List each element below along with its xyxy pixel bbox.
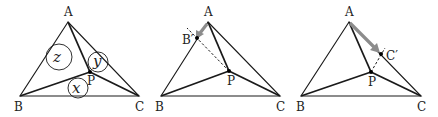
vertex-b-prime-label: B′: [182, 33, 194, 47]
circle-y-label: y: [92, 52, 102, 70]
vertex-b-label: B: [14, 100, 23, 114]
vertex-a-label: A: [63, 5, 73, 19]
triangle-abc: [161, 22, 280, 96]
segment-bp: [161, 71, 229, 96]
segment-bp: [301, 72, 371, 96]
point-p-dot: [369, 70, 373, 74]
vertex-c-label: C: [135, 100, 144, 114]
vertex-c-prime-label: C′: [386, 49, 398, 63]
point-p-dot: [227, 69, 231, 73]
vertex-a-label: A: [344, 5, 354, 19]
panel-2: A B′ B C P: [155, 5, 285, 114]
segment-cp: [90, 72, 139, 96]
panel-3: A C′ B C P: [296, 5, 426, 114]
circle-z-label: z: [52, 48, 61, 66]
point-c-prime-dot: [379, 52, 383, 56]
segment-ap: [68, 22, 90, 72]
vertex-c-label: C: [417, 100, 426, 114]
segment-ap: [208, 22, 229, 71]
segment-ap: [349, 22, 371, 72]
triangle-diagram-figure: z y x A B C P A B′ B C P A C′ B: [0, 0, 438, 117]
point-p-label: P: [227, 74, 235, 88]
arrow-a-to-c-prime: [350, 23, 374, 47]
point-p-label: P: [368, 75, 376, 89]
point-b-prime-dot: [195, 36, 199, 40]
vertex-a-label: A: [203, 5, 213, 19]
vertex-b-label: B: [155, 100, 164, 114]
vertex-b-label: B: [296, 100, 305, 114]
segment-cp: [229, 71, 280, 96]
segment-cp: [371, 72, 421, 96]
arrow-a-to-b-prime: [200, 24, 207, 33]
circle-x-label: x: [72, 79, 81, 97]
vertex-c-label: C: [276, 100, 285, 114]
point-p-label: P: [87, 74, 95, 88]
panel-1: z y x A B C P: [14, 5, 144, 114]
